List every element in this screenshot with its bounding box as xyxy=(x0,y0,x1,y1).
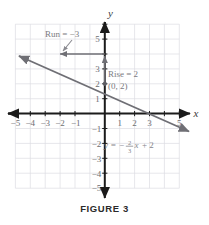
y-tick--3: −3 xyxy=(92,154,102,164)
figure-container: x y −5 −4 −3 −2 −1 1 2 3 5 5 3 2 1 −1 −2 xyxy=(0,0,209,225)
y-tick--2: −2 xyxy=(92,139,102,149)
equation-lhs: y = xyxy=(103,140,116,150)
x-tick--2: −2 xyxy=(55,118,65,128)
equation-fraction-numerator: 2 xyxy=(128,139,131,146)
x-tick--3: −3 xyxy=(40,118,50,128)
y-negative-tick-labels: −1 −2 −3 −4 −5 xyxy=(92,124,102,194)
line-equation: y = − 2 3 x + 2 xyxy=(103,139,154,154)
x-tick--4: −4 xyxy=(26,118,36,128)
rise-label: Rise = 2 xyxy=(108,69,138,79)
y-tick-2: 2 xyxy=(95,79,100,89)
y-intercept-point xyxy=(103,82,107,86)
equation-tail: + 2 xyxy=(142,140,154,150)
y-tick-3: 3 xyxy=(95,64,100,74)
coordinate-graph: x y −5 −4 −3 −2 −1 1 2 3 5 5 3 2 1 −1 −2 xyxy=(0,0,209,205)
x-tick--5: −5 xyxy=(11,118,21,128)
y-positive-tick-labels: 5 3 2 1 xyxy=(95,34,100,104)
y-tick--1: −1 xyxy=(92,124,102,134)
y-tick-5: 5 xyxy=(95,34,100,44)
y-tick--4: −4 xyxy=(92,169,102,179)
run-leader-line xyxy=(63,40,72,51)
x-axis-label: x xyxy=(193,107,199,119)
equation-minus-sign: − xyxy=(119,140,124,150)
x-tick-3: 3 xyxy=(147,118,152,128)
y-intercept-label: (0, 2) xyxy=(108,81,128,91)
x-tick-2: 2 xyxy=(132,118,137,128)
run-label: Run = −3 xyxy=(45,29,80,39)
x-tick--1: −1 xyxy=(71,118,81,128)
y-tick-1: 1 xyxy=(95,94,100,104)
x-tick-1: 1 xyxy=(117,118,122,128)
y-axis-label: y xyxy=(107,7,113,19)
x-tick-5: 5 xyxy=(177,118,182,128)
x-negative-tick-labels: −5 −4 −3 −2 −1 xyxy=(11,118,81,128)
equation-fraction-denominator: 3 xyxy=(128,147,131,154)
equation-variable: x xyxy=(134,140,139,150)
figure-caption: FIGURE 3 xyxy=(0,203,209,214)
y-tick--5: −5 xyxy=(92,183,102,193)
x-positive-tick-labels: 1 2 3 5 xyxy=(117,118,182,128)
